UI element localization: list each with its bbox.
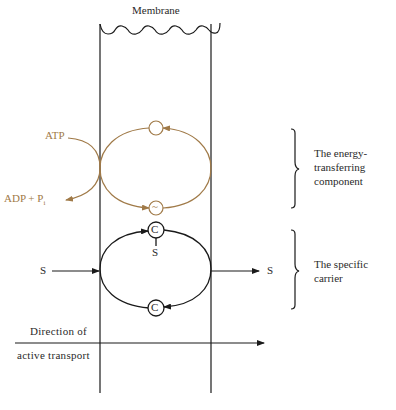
tilde-symbol: ~ bbox=[152, 200, 158, 212]
carrier-top-c-label: C bbox=[151, 223, 158, 235]
direction-label-line1: Direction of bbox=[30, 325, 87, 337]
energy-bracket bbox=[291, 129, 299, 208]
carrier-bracket bbox=[291, 230, 299, 309]
energy-cycle-right-arc bbox=[163, 128, 211, 208]
adp-pi-subscript: i bbox=[43, 199, 45, 207]
energy-bracket-label: The energy-transferring component bbox=[314, 146, 394, 188]
membrane-label: Membrane bbox=[132, 4, 180, 16]
energy-top-node bbox=[149, 121, 163, 135]
substrate-out-label: S bbox=[267, 264, 273, 276]
adp-pi-label: ADP + Pi bbox=[4, 192, 45, 207]
carrier-cycle-right-arc bbox=[164, 230, 211, 307]
carrier-attached-s-label: S bbox=[152, 246, 158, 258]
carrier-bottom-c-label: C bbox=[151, 301, 158, 313]
carrier-cycle-left-arc bbox=[100, 231, 149, 308]
direction-label-line2: active transport bbox=[17, 349, 90, 361]
energy-cycle-left-arc bbox=[100, 128, 149, 208]
atp-label: ATP bbox=[45, 129, 65, 141]
substrate-in-label: S bbox=[40, 264, 46, 276]
membrane-wavy-top bbox=[100, 23, 220, 34]
carrier-bracket-label: The specific carrier bbox=[314, 257, 394, 285]
energy-component bbox=[66, 121, 211, 215]
adp-pi-main: ADP + P bbox=[4, 192, 43, 204]
atp-to-adp-arrow bbox=[66, 138, 100, 200]
